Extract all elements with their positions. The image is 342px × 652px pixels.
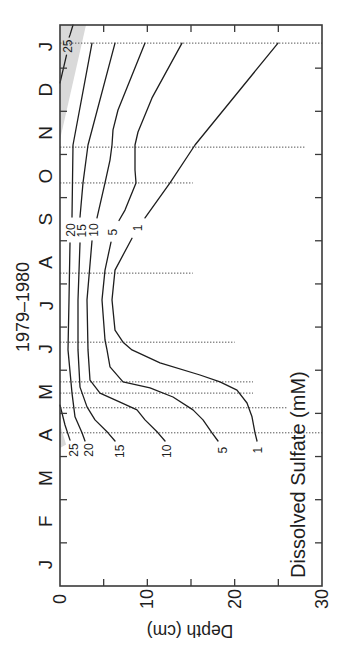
depth-tick-label: 30 xyxy=(312,589,332,609)
contour-label: 10 xyxy=(160,444,174,458)
contour-label: 15 xyxy=(113,444,127,458)
contour-label: 25 xyxy=(67,443,81,457)
month-label: A xyxy=(36,256,57,269)
contour-label: 1 xyxy=(251,446,265,453)
month-label: J xyxy=(36,344,57,354)
contour-label: 1 xyxy=(131,224,145,231)
contour-label: 5 xyxy=(106,228,120,235)
month-label: J xyxy=(36,560,57,570)
contour-label: 10 xyxy=(87,223,101,237)
depth-tick-label: 10 xyxy=(137,589,157,609)
depth-tick-label: 20 xyxy=(225,589,245,609)
month-label: A xyxy=(36,428,57,441)
depth-tick-label: 0 xyxy=(50,594,70,604)
month-label: J xyxy=(36,42,57,52)
contour-label: 5 xyxy=(216,446,230,453)
month-label: M xyxy=(36,384,57,400)
depth-axis-title: Depth (cm) xyxy=(147,621,234,641)
month-label: S xyxy=(36,213,57,226)
dissolved-sulfate-annotation: Dissolved Sulfate (mM) xyxy=(287,371,309,578)
sulfate-contour-chart: 11551010151520202525 JFMAMJJASONDJ 01020… xyxy=(0,0,342,652)
month-label: O xyxy=(36,169,57,184)
month-label: J xyxy=(36,301,57,311)
month-label: M xyxy=(36,470,57,486)
contour-label: 20 xyxy=(64,223,78,237)
month-label: D xyxy=(36,83,57,97)
chart-title: 1979–1980 xyxy=(13,262,33,352)
contour-label: 25 xyxy=(61,39,75,53)
month-label: N xyxy=(36,126,57,140)
month-label: F xyxy=(36,515,57,527)
contour-label: 20 xyxy=(82,443,96,457)
